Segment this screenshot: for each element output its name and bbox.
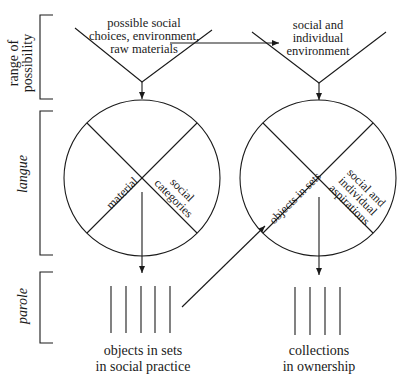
social-practice-line-2: in social practice	[85, 359, 201, 375]
ownership-line-1: collections	[274, 343, 364, 359]
left-input-line-3: raw materials	[84, 43, 204, 56]
practice-to-sets-arrow	[182, 226, 265, 307]
range-of-possibility-label: range of possibility	[7, 33, 35, 93]
langue-label: langue	[15, 151, 31, 197]
bracket-langue	[40, 111, 53, 255]
left-object-lines	[111, 286, 170, 333]
left-input-label: possible social choices, environment, ra…	[84, 17, 204, 56]
range-line-2: possibility	[21, 33, 35, 93]
bracket-range	[40, 15, 53, 99]
bracket-parole	[40, 272, 53, 343]
right-input-line-3: environment	[280, 45, 356, 58]
right-collection-lines	[295, 287, 340, 335]
range-line-1: range of	[7, 33, 21, 93]
social-practice-line-1: objects in sets	[85, 343, 201, 359]
ownership-label: collections in ownership	[274, 343, 364, 375]
social-practice-label: objects in sets in social practice	[85, 343, 201, 375]
parole-label: parole	[15, 286, 31, 326]
right-input-label: social and individual environment	[280, 19, 356, 58]
ownership-line-2: in ownership	[274, 359, 364, 375]
